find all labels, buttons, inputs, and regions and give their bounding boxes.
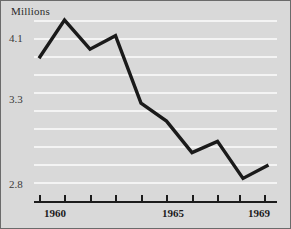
x-tick-label-1960: 1960 [44,207,66,219]
x-tick-1964 [141,195,143,202]
data-series-line [1,1,291,229]
x-tick-1963 [115,195,117,202]
x-tick-1969 [264,195,266,202]
x-tick-1968 [239,195,241,202]
y-tick-label-3-3: 3.3 [9,93,23,105]
x-tick-1965 [166,195,168,202]
x-tick-1967 [217,195,219,202]
y-tick-label-4-1: 4.1 [9,32,23,44]
x-tick-1961 [64,195,66,202]
y-tick-label-2-8: 2.8 [9,178,23,190]
x-tick-label-1965: 1965 [162,207,184,219]
x-tick-1966 [192,195,194,202]
x-axis-line [34,201,277,203]
line-chart: Millions 4.1 3.3 2.8 1960 1965 1969 [0,0,291,229]
plot-area: Millions 4.1 3.3 2.8 1960 1965 1969 [1,1,291,229]
y-axis-title: Millions [11,5,50,17]
x-tick-1962 [90,195,92,202]
x-tick-1960 [39,195,41,202]
x-tick-label-1969: 1969 [248,207,270,219]
